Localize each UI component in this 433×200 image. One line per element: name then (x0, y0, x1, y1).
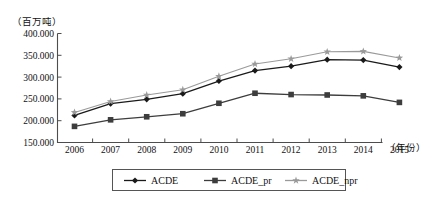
data-point-marker (288, 63, 294, 69)
x-tick-label: 2012 (282, 145, 301, 155)
data-point-marker (144, 96, 150, 102)
data-point-marker (108, 117, 114, 123)
y-tick-label: 350.000 (23, 51, 54, 61)
data-point-marker (251, 60, 258, 67)
legend-label: ACDE_npr (312, 175, 358, 186)
x-axis-tick-labels: 2006 2007 2008 2009 2010 2011 2012 2013 … (65, 145, 409, 155)
data-point-marker (287, 55, 294, 62)
x-tick-label: 2015 (390, 145, 409, 155)
series-layer (71, 47, 403, 129)
y-axis-tick-labels: 400.000 350.000 300.000 250.000 200.000 … (23, 29, 54, 148)
line-chart: （百万吨） （年份） 400.000 350.000 300.000 250.0… (0, 0, 433, 200)
legend-label: ACDE (151, 175, 178, 186)
data-point-marker (396, 54, 403, 61)
data-point-marker (360, 47, 367, 54)
legend-entries: ACDEACDE_prACDE_npr (124, 175, 358, 186)
series-acde-npr (71, 47, 403, 115)
data-point-marker (144, 114, 150, 120)
square-marker-icon (212, 178, 218, 184)
x-tick-label: 2008 (137, 145, 156, 155)
data-point-marker (216, 78, 222, 84)
data-point-marker (288, 92, 294, 98)
data-point-marker (360, 57, 366, 63)
data-point-marker (396, 64, 402, 70)
x-tick-label: 2007 (101, 145, 120, 155)
x-tick-label: 2010 (209, 145, 228, 155)
x-tick-label: 2013 (318, 145, 337, 155)
y-tick-label: 150.000 (23, 138, 54, 148)
x-tick-label: 2009 (173, 145, 192, 155)
data-point-marker (216, 100, 222, 106)
data-point-marker (180, 111, 186, 117)
series-acde (71, 57, 402, 119)
data-point-marker (252, 90, 258, 96)
data-point-marker (180, 91, 186, 97)
chart-legend: ACDEACDE_prACDE_npr (113, 170, 359, 191)
data-point-marker (72, 124, 78, 130)
legend-label: ACDE_pr (231, 175, 272, 186)
y-axis-ticks (58, 34, 62, 143)
x-tick-label: 2014 (354, 145, 373, 155)
data-point-marker (252, 67, 258, 73)
data-point-marker (361, 93, 367, 99)
x-axis-ticks (93, 139, 382, 143)
y-tick-label: 250.000 (23, 94, 54, 104)
x-tick-label: 2011 (246, 145, 265, 155)
y-tick-label: 300.000 (23, 73, 54, 83)
data-point-marker (323, 48, 330, 55)
chart-plot-area: 400.000 350.000 300.000 250.000 200.000 … (0, 0, 433, 200)
y-tick-label: 400.000 (23, 29, 54, 39)
data-point-marker (324, 57, 330, 63)
data-point-marker (397, 100, 403, 106)
legend-box (113, 170, 346, 191)
axis-lines (58, 34, 383, 143)
data-point-marker (324, 92, 330, 98)
x-tick-label: 2006 (65, 145, 84, 155)
series-acde-pr (72, 90, 403, 129)
y-tick-label: 200.000 (23, 116, 54, 126)
